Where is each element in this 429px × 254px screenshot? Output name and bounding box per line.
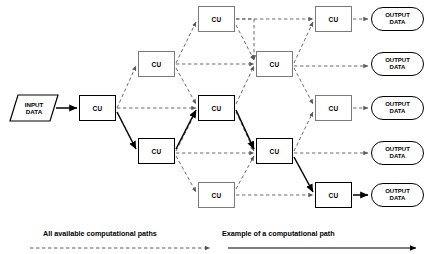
cu-node-c5r1[interactable]: CU	[315, 6, 352, 32]
input-data-label: INPUT DATA	[10, 95, 58, 121]
cu-label: CU	[152, 148, 162, 155]
cu-label: CU	[212, 105, 222, 112]
output-data-line2: DATA	[390, 108, 406, 114]
cu-node-c3r5[interactable]: CU	[198, 182, 235, 208]
output-data-line1: OUTPUT	[385, 146, 410, 152]
output-data-line2: DATA	[390, 153, 406, 159]
output-data-line1: OUTPUT	[385, 57, 410, 63]
output-data-line1: OUTPUT	[385, 101, 410, 107]
cu-label: CU	[93, 105, 103, 112]
output-data-node-1[interactable]: OUTPUTDATA	[371, 7, 424, 31]
cu-node-c5r3[interactable]: CU	[315, 95, 352, 121]
cu-label: CU	[152, 61, 162, 68]
cu-label: CU	[329, 192, 339, 199]
input-data-line2: DATA	[26, 108, 42, 115]
output-data-line2: DATA	[390, 19, 406, 25]
output-data-node-4[interactable]: OUTPUTDATA	[371, 141, 424, 165]
cu-label: CU	[329, 16, 339, 23]
output-data-line1: OUTPUT	[385, 188, 410, 194]
legend-right-label: Example of a computational path	[222, 229, 335, 238]
output-data-line2: DATA	[390, 64, 406, 70]
cu-node-c3r3[interactable]: CU	[198, 95, 235, 121]
edges-layer	[0, 0, 429, 254]
cu-node-c4r2[interactable]: CU	[256, 51, 293, 77]
cu-label: CU	[270, 61, 280, 68]
output-data-node-5[interactable]: OUTPUTDATA	[371, 183, 424, 207]
output-data-node-3[interactable]: OUTPUTDATA	[371, 96, 424, 120]
cu-label: CU	[212, 16, 222, 23]
cu-node-c1r3[interactable]: CU	[79, 95, 116, 121]
legend-left-label: All available computational paths	[43, 229, 157, 238]
input-data-line1: INPUT	[25, 101, 44, 108]
cu-node-c4r4[interactable]: CU	[256, 138, 293, 164]
cu-node-c2r2[interactable]: CU	[138, 51, 175, 77]
cu-label: CU	[212, 192, 222, 199]
output-data-node-2[interactable]: OUTPUTDATA	[371, 52, 424, 76]
output-data-line2: DATA	[390, 195, 406, 201]
cu-label: CU	[270, 148, 280, 155]
output-data-line1: OUTPUT	[385, 12, 410, 18]
cu-node-c5r5[interactable]: CU	[315, 182, 352, 208]
cu-node-c3r1[interactable]: CU	[198, 6, 235, 32]
cu-node-c2r4[interactable]: CU	[138, 138, 175, 164]
cu-label: CU	[329, 105, 339, 112]
diagram-canvas: INPUT DATA CU CU CU CU CU CU CU CU CU CU…	[0, 0, 429, 254]
